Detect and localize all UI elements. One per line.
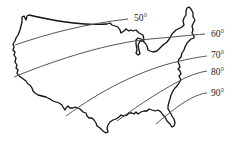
isotherm-label-60: 60° [211,29,225,39]
isotherm-line-60 [14,34,205,77]
isotherm-label-70: 70° [211,50,225,60]
us-isotherm-map: 50° 60° 70° 80° 90° [0,0,238,141]
isotherm-line-90 [156,93,207,124]
isotherm-label-80: 80° [211,67,225,77]
isotherm-label-50: 50° [134,13,148,23]
isotherm-label-90: 90° [211,88,225,98]
